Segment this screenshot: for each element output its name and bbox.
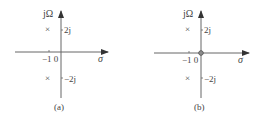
pole-lower: ×	[185, 73, 190, 83]
tick-neg-label: −2j	[64, 74, 76, 84]
pole-lower: ×	[45, 73, 50, 83]
y-axis-label: jΩ	[42, 8, 53, 19]
caption: (b)	[194, 102, 205, 112]
x-axis-label: σ	[98, 53, 104, 64]
caption: (a)	[54, 102, 64, 112]
x-axis-label: σ	[238, 54, 244, 65]
tick-pos-label: 2j	[64, 25, 71, 35]
diagram-a: jΩ × 2j −1 0 σ × −2j (a)	[15, 8, 108, 112]
tick-pos-label: 2j	[204, 25, 211, 35]
tick-neg-label: −2j	[204, 74, 216, 84]
pole-upper: ×	[45, 24, 50, 34]
pole-upper: ×	[185, 24, 190, 34]
diagram-b: jΩ × 2j −1 0 σ × −2j (b)	[154, 8, 249, 112]
origin-label: −1 0	[42, 54, 59, 64]
y-axis-label: jΩ	[182, 8, 193, 19]
origin-label: −1 0	[182, 55, 199, 65]
pole-zero-diagrams: jΩ × 2j −1 0 σ × −2j (a) jΩ × 2j −1 0 σ …	[0, 0, 262, 123]
